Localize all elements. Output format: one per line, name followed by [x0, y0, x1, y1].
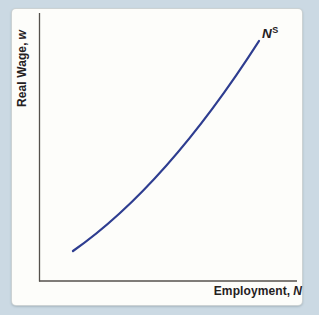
curve-label-base: N — [262, 26, 272, 41]
figure-background: Real Wage,w Employment,N NS — [0, 0, 319, 315]
plot-area — [0, 0, 319, 315]
x-axis-variable: N — [293, 284, 302, 298]
curve-label: NS — [262, 26, 278, 40]
supply-curve — [73, 41, 259, 251]
y-axis-variable: w — [15, 30, 29, 39]
y-axis-label: Real Wage,w — [16, 30, 28, 107]
curve-label-superscript: S — [272, 25, 278, 35]
x-axis-label: Employment,N — [214, 285, 302, 297]
y-axis-label-text: Real Wage, — [15, 42, 29, 107]
x-axis-label-text: Employment, — [214, 284, 290, 298]
